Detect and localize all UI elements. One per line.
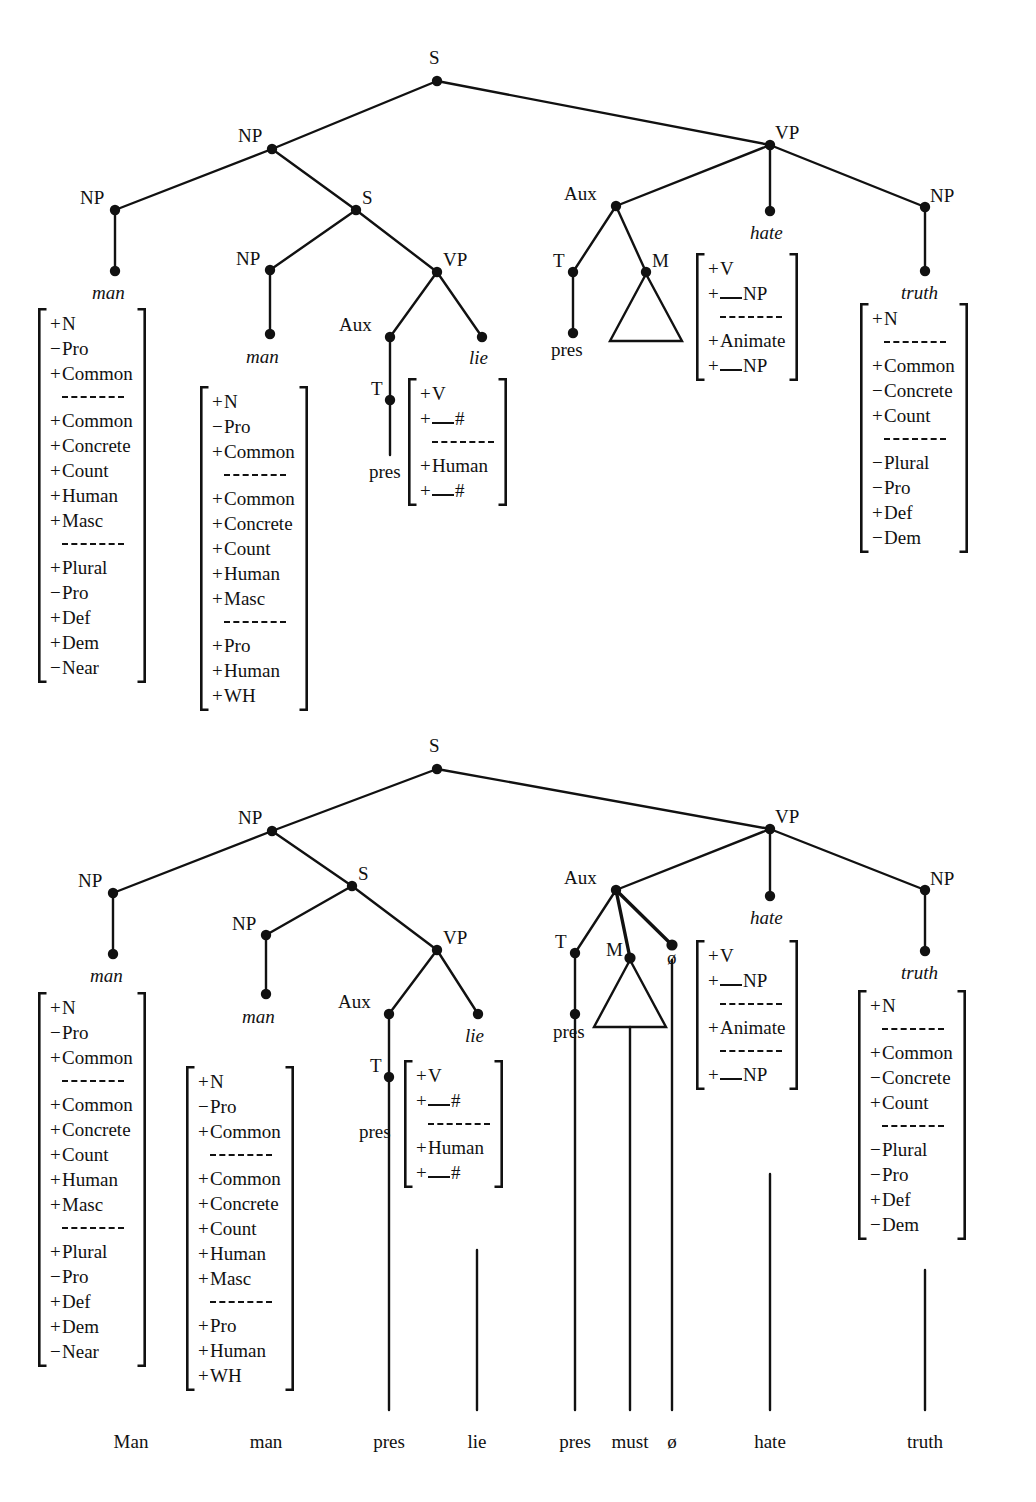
matrix-feature-row: +WH xyxy=(198,1363,281,1388)
feature-sign: + xyxy=(416,1063,428,1088)
feature-sign: + xyxy=(420,406,432,431)
matrix-feature-row: +Masc xyxy=(50,1192,133,1217)
matrix-feature-row: +Masc xyxy=(50,508,133,533)
bracket-left xyxy=(696,253,705,381)
matrix-rows: +N−Pro+Common+Common+Concrete+Count+Huma… xyxy=(195,1066,285,1391)
feature-name: Pro xyxy=(210,1094,236,1119)
dot-np-head xyxy=(110,205,120,215)
t2-lexical-man-outer: man xyxy=(90,966,123,985)
feature-sign: + xyxy=(198,1363,210,1388)
feature-name: Pro xyxy=(62,580,88,605)
matrix-feature-row: +Masc xyxy=(212,586,295,611)
matrix-feature-row: +Animate xyxy=(708,1015,785,1040)
matrix-feature-row: +Dem xyxy=(50,1314,133,1339)
feature-sign: + xyxy=(870,1040,882,1065)
matrix-rows: +N−Pro+Common+Common+Concrete+Count+Huma… xyxy=(47,308,137,683)
dashed-line xyxy=(428,1123,490,1125)
feature-name: Common xyxy=(62,1092,133,1117)
matrix-hate-tree2: +V+NP+Animate+NP xyxy=(696,940,798,1090)
bracket-right xyxy=(137,992,146,1367)
feature-sign: + xyxy=(50,1314,62,1339)
matrix-feature-row: +Count xyxy=(50,458,133,483)
dot-truth xyxy=(920,266,930,276)
feature-sign: − xyxy=(872,475,884,500)
feature-name: NP xyxy=(720,968,767,993)
node-label-pres-rel: pres xyxy=(369,462,401,481)
matrix-feature-row: +Human xyxy=(198,1241,281,1266)
feature-sign: + xyxy=(50,555,62,580)
feature-sign: + xyxy=(212,486,224,511)
dot-vp-rel xyxy=(432,267,442,277)
dot-lie xyxy=(477,332,487,342)
feature-sign: + xyxy=(420,478,432,503)
matrix-feature-row: +Common xyxy=(212,486,295,511)
dashed-line xyxy=(432,441,494,443)
feature-sign: + xyxy=(50,458,62,483)
feature-sign: + xyxy=(198,1166,210,1191)
bracket-right xyxy=(137,308,146,683)
tree-edges-layer xyxy=(0,0,1036,1502)
feature-name: Dem xyxy=(62,1314,99,1339)
node-label-np-subject: NP xyxy=(238,126,262,145)
feature-name: Human xyxy=(62,483,118,508)
feature-name: NP xyxy=(720,1062,767,1087)
feature-sign: + xyxy=(872,403,884,428)
bracket-right xyxy=(285,1066,294,1391)
bracket-right xyxy=(494,1060,503,1188)
feature-name: Common xyxy=(884,353,955,378)
matrix-feature-row: +N xyxy=(872,306,955,331)
feature-sign: + xyxy=(708,328,720,353)
bracket-left xyxy=(858,990,867,1240)
feature-name: Plural xyxy=(884,450,929,475)
matrix-feature-row: +Def xyxy=(50,605,133,630)
bracket-left xyxy=(408,378,417,506)
matrix-feature-row: +Def xyxy=(872,500,955,525)
bracket-left xyxy=(860,303,869,553)
feature-sign: + xyxy=(212,439,224,464)
bracket-right xyxy=(957,990,966,1240)
feature-sign: + xyxy=(870,1187,882,1212)
subcategorization-blank xyxy=(720,358,742,371)
feature-name: N xyxy=(62,995,76,1020)
feature-name: Common xyxy=(882,1040,953,1065)
dashed-line xyxy=(882,1125,944,1127)
edge-auxmain-t xyxy=(573,206,616,272)
t2-triangle-m xyxy=(594,960,666,1027)
t2-edge-np-nphead xyxy=(113,831,272,893)
t2-dot-s-embedded xyxy=(347,881,357,891)
t2-node-label-s-root: S xyxy=(429,736,440,755)
matrix-separator xyxy=(870,1018,953,1040)
matrix-separator xyxy=(872,331,955,353)
terminal-word: ø xyxy=(667,1432,677,1451)
matrix-feature-row: +WH xyxy=(212,683,295,708)
dashed-line xyxy=(62,1227,124,1229)
feature-sign: + xyxy=(416,1160,428,1185)
feature-name: Def xyxy=(62,605,90,630)
feature-sign: + xyxy=(870,993,882,1018)
feature-sign: + xyxy=(198,1069,210,1094)
feature-name: Count xyxy=(882,1090,928,1115)
matrix-feature-row: +Common xyxy=(50,408,133,433)
feature-sign: − xyxy=(50,336,62,361)
matrix-rows: +V+NP+Animate+NP xyxy=(705,940,789,1090)
t2-node-label-aux-rel: Aux xyxy=(338,992,371,1011)
t2-node-label-np-head: NP xyxy=(78,871,102,890)
feature-name: # xyxy=(432,478,465,503)
feature-name: Pro xyxy=(62,336,88,361)
feature-name: Masc xyxy=(62,508,103,533)
feature-sign: + xyxy=(708,353,720,378)
matrix-separator xyxy=(50,1217,133,1239)
feature-sign: + xyxy=(198,1338,210,1363)
edge-np-sembed xyxy=(272,149,356,210)
feature-name: Human xyxy=(210,1241,266,1266)
feature-name: Pro xyxy=(224,633,250,658)
dashed-line xyxy=(720,316,782,318)
feature-sign: + xyxy=(50,1167,62,1192)
feature-name: Common xyxy=(62,408,133,433)
matrix-feature-row: −Dem xyxy=(870,1212,953,1237)
dot-t-main xyxy=(568,267,578,277)
t2-dot-np-head xyxy=(108,888,118,898)
matrix-man-inner-tree1: +N−Pro+Common+Common+Concrete+Count+Huma… xyxy=(200,386,308,711)
matrix-feature-row: −Pro xyxy=(198,1094,281,1119)
terminal-word: man xyxy=(250,1432,283,1451)
